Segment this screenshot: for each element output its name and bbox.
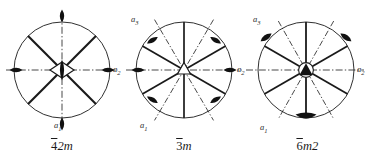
- axis-label-a2-sub: 2: [361, 69, 364, 76]
- axis-label-a3-sub: 3: [135, 19, 138, 26]
- panel-caption-3barm: 3m: [120, 139, 248, 154]
- stereogram-6barm2: [244, 0, 371, 138]
- two-fold-lens-150: [261, 34, 272, 42]
- axis-label-a1-sub: 1: [264, 127, 267, 134]
- axis-label-a3: a3: [253, 14, 261, 26]
- caption-rest: 2m: [57, 139, 73, 153]
- diagram-panel-6barm2: a3 a2 a1 6m2: [244, 0, 371, 162]
- axis-label-a2: a2: [357, 64, 365, 76]
- caption-rest: m2: [303, 139, 319, 153]
- diagram-panel-4bar2m: a1 a2 42m: [0, 0, 124, 162]
- stereogram-3barm: [120, 0, 248, 138]
- six-bar-axis-symbol: [299, 63, 314, 78]
- diagram-panel-3barm: a3 a2 a1 3m: [120, 0, 248, 162]
- panel-caption-6barm2: 6m2: [244, 139, 371, 154]
- axis-label-a1-sub: 1: [58, 125, 61, 132]
- caption-rest: m: [183, 139, 192, 153]
- axis-label-a1-sub: 1: [144, 125, 147, 132]
- two-fold-lens-left: [10, 68, 23, 72]
- axis-label-a1: a1: [54, 120, 62, 132]
- panel-caption-4bar2m: 42m: [0, 139, 124, 154]
- axis-label-a3-sub: 3: [257, 19, 260, 26]
- two-fold-lens-30: [340, 34, 351, 42]
- axis-label-a1: a1: [260, 122, 268, 134]
- two-fold-lens-180: [132, 68, 145, 72]
- two-fold-lens-top: [60, 10, 64, 23]
- axis-label-a3: a3: [131, 14, 139, 26]
- axis-label-a1: a1: [140, 120, 148, 132]
- symmetry-diagram-figure: a1 a2 42m: [0, 0, 371, 162]
- two-fold-lens-0: [224, 68, 237, 72]
- stereogram-4bar2m: [0, 0, 124, 138]
